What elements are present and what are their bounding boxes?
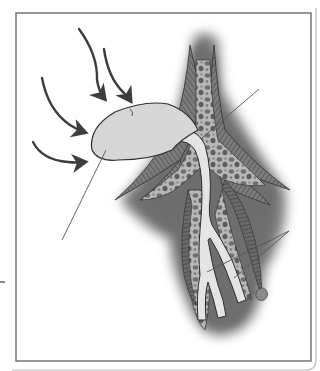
anatomical-illustration [0,0,320,371]
tissue-tuft [256,288,268,301]
